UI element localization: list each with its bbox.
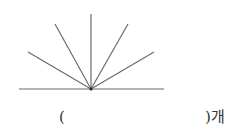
ray-4 [91, 24, 128, 89]
angle-rays-diagram [0, 0, 240, 100]
ray-1 [28, 52, 91, 89]
answer-open-paren: ( [59, 108, 65, 126]
answer-close-unit: )개 [205, 108, 225, 126]
ray-5 [91, 52, 154, 89]
ray-2 [55, 24, 91, 89]
vertex-point [90, 88, 93, 91]
answer-blank[interactable] [72, 108, 200, 126]
